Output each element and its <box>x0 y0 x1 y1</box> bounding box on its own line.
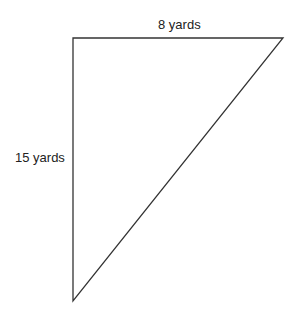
right-triangle <box>73 38 283 301</box>
top-side-label: 8 yards <box>158 17 201 32</box>
left-side-label: 15 yards <box>15 150 65 165</box>
